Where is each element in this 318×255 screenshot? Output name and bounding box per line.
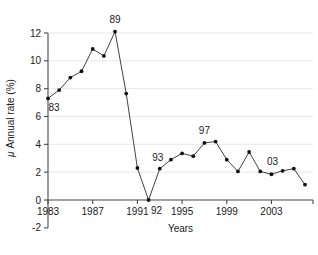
data-point [180, 151, 184, 155]
point-annotation: 83 [48, 102, 60, 113]
x-tick-label: 1991 [126, 206, 149, 217]
y-tick-label: 12 [30, 28, 42, 39]
point-annotation: 89 [109, 14, 121, 25]
y-tick-label: 8 [35, 83, 41, 94]
point-annotation: 92 [151, 205, 163, 216]
data-point [124, 92, 128, 96]
data-point [203, 141, 207, 145]
x-tick-label: 1995 [171, 206, 194, 217]
data-point [147, 198, 151, 202]
chart-container: -2024681012 198319871991199519992003 838… [0, 0, 318, 255]
data-point [303, 183, 307, 187]
data-point [225, 158, 229, 162]
y-tick-label: 0 [35, 195, 41, 206]
y-tick-label: 2 [35, 167, 41, 178]
y-tick-label: -2 [32, 222, 41, 233]
data-point [158, 167, 162, 171]
point-annotation: 93 [152, 152, 164, 163]
data-point [247, 150, 251, 154]
x-tick-label: 1999 [216, 206, 239, 217]
y-axis-title: μ Annual rate (%) [5, 79, 16, 158]
data-point [270, 172, 274, 176]
data-point [281, 169, 285, 173]
data-point [80, 69, 84, 73]
x-tick-label: 1983 [37, 206, 60, 217]
point-annotation: 97 [199, 125, 211, 136]
x-tick-label: 1987 [82, 206, 105, 217]
data-point [135, 166, 139, 170]
x-tick-label: 2003 [260, 206, 283, 217]
data-point [169, 158, 173, 162]
data-point [113, 30, 117, 34]
data-point [292, 167, 296, 171]
data-point [57, 88, 61, 92]
y-tick-label: 4 [35, 139, 41, 150]
data-point [236, 170, 240, 174]
data-point [102, 54, 106, 58]
y-tick-label: 6 [35, 111, 41, 122]
data-point [191, 154, 195, 158]
data-point [91, 47, 95, 51]
data-point [68, 76, 72, 80]
x-axis-title: Years [168, 223, 193, 234]
data-point [214, 140, 218, 144]
data-point [258, 170, 262, 174]
line-chart: -2024681012 198319871991199519992003 838… [0, 0, 318, 255]
data-point [46, 97, 50, 101]
y-tick-label: 10 [30, 55, 42, 66]
point-annotation: 03 [267, 156, 279, 167]
